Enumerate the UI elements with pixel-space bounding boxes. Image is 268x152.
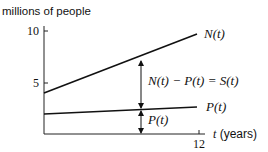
- y-tick-label-10: 10: [27, 24, 39, 38]
- p-arrow-label: P(t): [147, 112, 168, 127]
- x-tick-label-12: 12: [193, 137, 205, 151]
- difference-label: N(t) − P(t) = S(t): [147, 73, 238, 88]
- series-n-label: N(t): [203, 26, 225, 41]
- x-axis-label: t (years): [213, 127, 257, 141]
- chart: millions of people 10 5 12 t (years) N(t…: [0, 0, 268, 152]
- y-tick-label-5: 5: [33, 76, 39, 90]
- y-axis-label: millions of people: [2, 5, 91, 17]
- series-p-label: P(t): [205, 99, 226, 114]
- series-p-line: [44, 107, 197, 114]
